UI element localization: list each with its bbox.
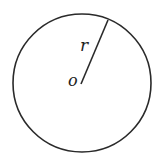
circle-diagram: r o xyxy=(0,0,162,168)
center-label: o xyxy=(68,71,78,90)
radius-label: r xyxy=(80,35,89,55)
diagram-canvas: r o xyxy=(0,0,162,168)
